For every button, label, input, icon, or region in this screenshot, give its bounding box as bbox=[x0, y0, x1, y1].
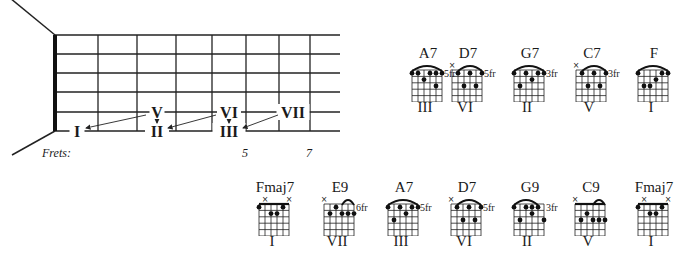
finger-dot bbox=[660, 71, 665, 76]
chord-name: F bbox=[632, 46, 676, 61]
chord-degree: I bbox=[629, 234, 673, 249]
finger-dot bbox=[257, 205, 262, 210]
finger-dot bbox=[636, 71, 641, 76]
chord-grid: ×× bbox=[253, 194, 313, 236]
degree-label-II: II bbox=[151, 123, 163, 140]
finger-dot bbox=[585, 211, 590, 216]
finger-dot bbox=[467, 205, 472, 210]
degree-label-VII: VII bbox=[281, 104, 305, 121]
finger-dot bbox=[524, 71, 529, 76]
perspective-line-top bbox=[10, 0, 55, 35]
muted-string-icon: × bbox=[665, 195, 672, 204]
degree-label-I: I bbox=[74, 123, 80, 140]
chord-name: C9 bbox=[569, 180, 613, 195]
muted-string-icon: × bbox=[573, 61, 580, 70]
chord-e9-vii: E9×6frVII bbox=[318, 180, 378, 259]
fret-position-label: 3fr bbox=[546, 68, 558, 79]
chord-name: G9 bbox=[508, 180, 552, 195]
muted-string-icon: × bbox=[262, 195, 269, 204]
fret-position-label: 5fr bbox=[484, 68, 496, 79]
chord-degree: VI bbox=[443, 100, 487, 115]
finger-dot bbox=[512, 71, 517, 76]
fret-position-label: 3fr bbox=[608, 68, 620, 79]
chord-grid: 5fr bbox=[382, 194, 442, 236]
muted-string-icon: × bbox=[572, 195, 579, 204]
chord-name: A7 bbox=[382, 180, 426, 195]
finger-dot bbox=[328, 211, 333, 216]
chord-degree: VII bbox=[315, 234, 359, 249]
chord-d7-vi: D7×5frVI bbox=[445, 180, 505, 259]
chord-grid: 3fr bbox=[508, 60, 568, 102]
muted-string-icon: × bbox=[449, 61, 456, 70]
chord-degree: II bbox=[505, 234, 549, 249]
finger-dot bbox=[603, 218, 608, 223]
degree-label-III: III bbox=[220, 123, 239, 140]
finger-dot bbox=[542, 218, 547, 223]
finger-dot bbox=[386, 205, 391, 210]
fret-number-5: 5 bbox=[242, 146, 248, 161]
frets-label: Frets: bbox=[42, 146, 71, 161]
chord-degree: III bbox=[403, 100, 447, 115]
chord-name: D7 bbox=[445, 180, 489, 195]
finger-dot bbox=[580, 71, 585, 76]
finger-dot bbox=[654, 211, 659, 216]
finger-dot bbox=[636, 205, 641, 210]
finger-dot bbox=[334, 205, 339, 210]
chord-grid: 3fr bbox=[508, 194, 568, 236]
finger-dot bbox=[398, 205, 403, 210]
finger-dot bbox=[598, 84, 603, 89]
muted-string-icon: × bbox=[448, 195, 455, 204]
chord-degree: I bbox=[250, 234, 294, 249]
chord-degree: III bbox=[379, 234, 423, 249]
chord-fmaj7-i: Fmaj7××I bbox=[253, 180, 313, 259]
finger-dot bbox=[591, 218, 596, 223]
finger-dot bbox=[434, 71, 439, 76]
finger-dot bbox=[474, 84, 479, 89]
chord-grid: ×5fr bbox=[446, 60, 506, 102]
finger-dot bbox=[648, 211, 653, 216]
finger-dot bbox=[654, 77, 659, 82]
finger-dot bbox=[586, 84, 591, 89]
finger-dot bbox=[530, 211, 535, 216]
chord-c9-v: C9×V bbox=[569, 180, 629, 259]
chord-grid: ×3fr bbox=[570, 60, 630, 102]
chord-degree: V bbox=[566, 234, 610, 249]
chord-grid: ×× bbox=[632, 194, 692, 236]
chord-degree: I bbox=[629, 100, 673, 115]
chord-degree: V bbox=[567, 100, 611, 115]
finger-dot bbox=[461, 218, 466, 223]
chord-name: D7 bbox=[446, 46, 490, 61]
chord-a7-iii: A75frIII bbox=[382, 180, 442, 259]
chord-d7-vi: D7×5frVI bbox=[446, 46, 506, 126]
finger-dot bbox=[416, 71, 421, 76]
fret-position-label: 5fr bbox=[483, 202, 495, 213]
degree-label-V: V bbox=[151, 104, 163, 121]
finger-dot bbox=[512, 205, 517, 210]
chord-name: E9 bbox=[318, 180, 362, 195]
muted-string-icon: × bbox=[321, 195, 328, 204]
fret-position-label: 3fr bbox=[546, 202, 558, 213]
finger-dot bbox=[530, 205, 535, 210]
finger-dot bbox=[434, 84, 439, 89]
chord-degree: II bbox=[505, 100, 549, 115]
finger-dot bbox=[524, 205, 529, 210]
chord-c7-v: C7×3frV bbox=[570, 46, 630, 126]
chord-name: A7 bbox=[406, 46, 450, 61]
finger-dot bbox=[462, 84, 467, 89]
finger-dot bbox=[530, 77, 535, 82]
finger-dot bbox=[518, 84, 523, 89]
chord-grid: × bbox=[569, 194, 629, 236]
chord-g7-ii: G73frII bbox=[508, 46, 568, 126]
finger-dot bbox=[666, 71, 671, 76]
finger-dot bbox=[473, 218, 478, 223]
arrow-VI-to-II bbox=[168, 115, 216, 128]
fret-position-label: 6fr bbox=[356, 202, 368, 213]
chord-name: Fmaj7 bbox=[632, 180, 676, 195]
finger-dot bbox=[456, 71, 461, 76]
chord-grid: ×5fr bbox=[445, 194, 505, 236]
finger-dot bbox=[392, 218, 397, 223]
chord-fmaj7-i: Fmaj7××I bbox=[632, 180, 692, 259]
chord-name: G7 bbox=[508, 46, 552, 61]
finger-dot bbox=[468, 71, 473, 76]
chord-degree: VI bbox=[442, 234, 486, 249]
